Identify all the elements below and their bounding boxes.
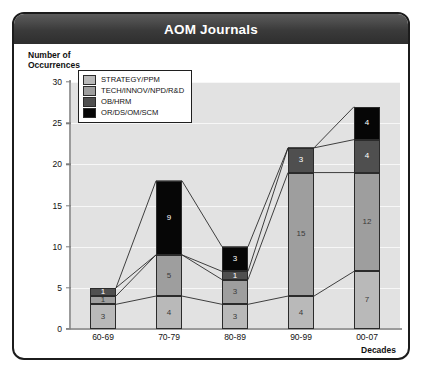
bar-segment-value: 1 [233, 272, 237, 280]
legend-item: OR/DS/OM/SCM [83, 107, 184, 118]
y-axis-tick-mark [66, 164, 71, 165]
bar-segment: 1 [222, 271, 248, 279]
x-axis-title: Decades [361, 345, 396, 355]
legend-swatch-icon [83, 108, 96, 118]
bar-segment-value: 7 [365, 296, 369, 304]
x-axis-label: 00-07 [356, 332, 378, 342]
bar-segment: 5 [156, 255, 182, 296]
x-axis-label: 70-79 [158, 332, 180, 342]
y-axis-tick-mark [66, 287, 71, 288]
bar-segment-value: 1 [101, 288, 105, 296]
legend-item-label: OB/HRM [101, 97, 131, 106]
y-axis-title: Number of Occurrences [28, 50, 118, 70]
bar-segment-value: 3 [233, 255, 237, 263]
legend-swatch-icon [83, 86, 96, 96]
x-axis-label: 90-99 [290, 332, 312, 342]
bar-segment: 3 [90, 304, 116, 329]
y-axis-tick-label: 10 [36, 242, 62, 252]
y-axis-title-line1: Number of [28, 50, 118, 60]
legend-item: STRATEGY/PPM [83, 74, 184, 85]
bar-segment: 15 [288, 173, 314, 297]
bar-segment: 3 [222, 280, 248, 305]
y-axis-tick-mark [66, 81, 71, 82]
y-axis-tick-label: 25 [36, 118, 62, 128]
y-axis-title-line2: Occurrences [28, 60, 118, 70]
chart-panel: AOM Journals Number of Occurrences 05101… [12, 12, 410, 360]
y-axis-tick-label: 20 [36, 159, 62, 169]
y-axis-tick-mark [66, 205, 71, 206]
bar-segment: 1 [90, 296, 116, 304]
bar-segment: 3 [288, 148, 314, 173]
bar-segment: 1 [90, 288, 116, 296]
legend-item: OB/HRM [83, 96, 184, 107]
y-axis-tick-label: 0 [36, 324, 62, 334]
bar-segment-value: 3 [233, 313, 237, 321]
bar-segment-value: 3 [299, 156, 303, 164]
x-axis-label: 80-89 [224, 332, 246, 342]
bar-segment-value: 9 [167, 214, 171, 222]
bar-90-99: 41530 [288, 82, 314, 329]
y-axis-tick-label: 15 [36, 201, 62, 211]
bar-segment: 4 [354, 107, 380, 140]
bar-80-89: 3313 [222, 82, 248, 329]
bar-00-07: 71244 [354, 82, 380, 329]
bar-segment-value: 4 [365, 152, 369, 160]
bar-segment: 9 [156, 181, 182, 255]
bar-segment: 4 [354, 140, 380, 173]
title-bar: AOM Journals [14, 14, 408, 44]
legend-swatch-icon [83, 97, 96, 107]
legend-item-label: STRATEGY/PPM [101, 75, 160, 84]
bar-segment-value: 4 [365, 119, 369, 127]
bar-segment-value: 15 [297, 230, 306, 238]
bar-segment-value: 4 [167, 309, 171, 317]
bar-segment-value: 1 [101, 296, 105, 304]
y-axis-tick-mark [66, 328, 71, 329]
bar-segment: 3 [222, 247, 248, 272]
y-axis-tick-label: 5 [36, 283, 62, 293]
bar-segment-value: 5 [167, 272, 171, 280]
y-axis-tick-label: 30 [36, 77, 62, 87]
legend-item: TECH/INNOV/NPD/R&D [83, 85, 184, 96]
legend-swatch-icon [83, 75, 96, 85]
legend-item-label: TECH/INNOV/NPD/R&D [101, 86, 184, 95]
bar-segment: 7 [354, 271, 380, 329]
legend-item-label: OR/DS/OM/SCM [101, 108, 158, 117]
bar-segment-value: 4 [299, 309, 303, 317]
x-axis-label: 60-69 [92, 332, 114, 342]
bar-segment: 4 [288, 296, 314, 329]
bar-segment: 3 [222, 304, 248, 329]
y-axis-tick-mark [66, 246, 71, 247]
bar-segment: 4 [156, 296, 182, 329]
page-title: AOM Journals [164, 22, 258, 37]
bar-segment-value: 3 [101, 313, 105, 321]
y-axis-tick-mark [66, 122, 71, 123]
bar-segment-value: 12 [363, 218, 372, 226]
legend: STRATEGY/PPMTECH/INNOV/NPD/R&DOB/HRMOR/D… [78, 70, 192, 123]
bar-segment: 12 [354, 173, 380, 272]
bar-segment-value: 3 [233, 288, 237, 296]
